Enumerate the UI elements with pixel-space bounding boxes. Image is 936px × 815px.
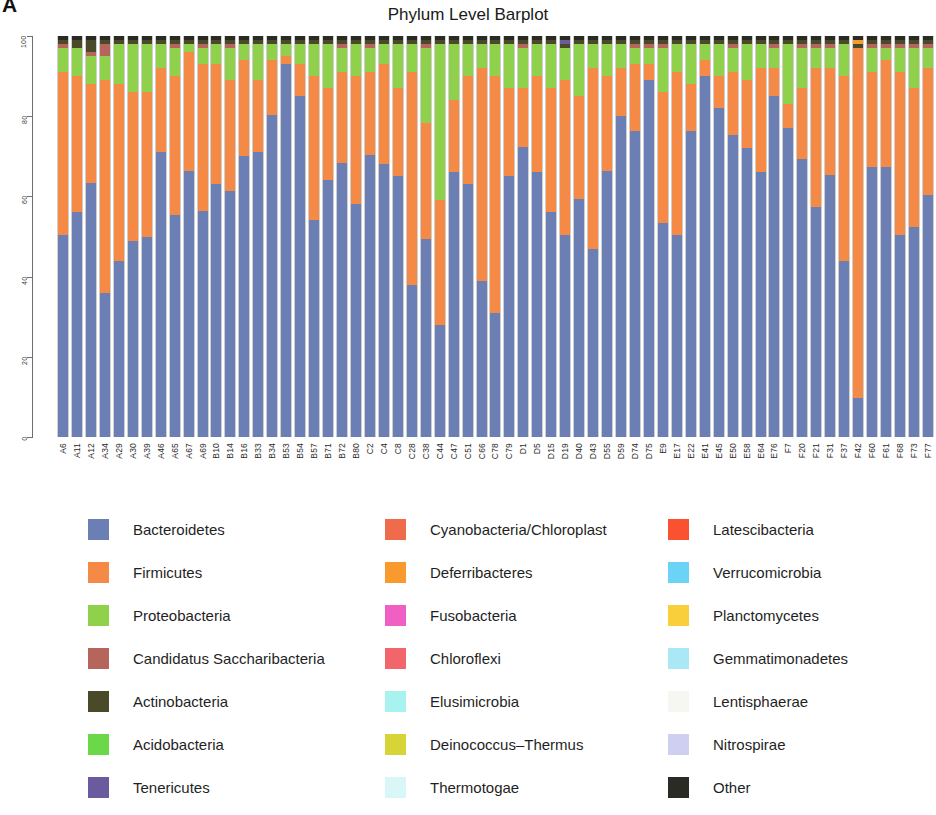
stacked-bar[interactable] [713,36,725,437]
stacked-bar[interactable] [782,36,794,437]
legend-item[interactable]: Other [668,766,848,809]
stacked-bar[interactable] [894,36,906,437]
bar-segment [351,76,361,204]
x-axis-tick-label-wrap: E76 [767,443,781,503]
legend-item[interactable]: Deinococcus–Thermus [385,723,607,766]
stacked-bar[interactable] [489,36,501,437]
stacked-bar[interactable] [350,36,362,437]
stacked-bar[interactable] [573,36,585,437]
stacked-bar[interactable] [183,36,195,437]
stacked-bar[interactable] [294,36,306,437]
legend-item[interactable]: Lentisphaerae [668,680,848,723]
stacked-bar[interactable] [57,36,69,437]
stacked-bar[interactable] [699,36,711,437]
stacked-bar[interactable] [880,36,892,437]
legend-item[interactable]: Chloroflexi [385,637,607,680]
stacked-bar[interactable] [601,36,613,437]
stacked-bar[interactable] [127,36,139,437]
stacked-bar[interactable] [838,36,850,437]
legend-item[interactable]: Nitrospirae [668,723,848,766]
stacked-bar[interactable] [210,36,222,437]
x-axis-tick-label-wrap: B10 [209,443,223,503]
bar-segment [198,48,208,64]
stacked-bar[interactable] [85,36,97,437]
legend-item[interactable]: Bacteroidetes [88,508,325,551]
x-axis-tick-label-wrap: C78 [488,443,502,503]
legend-item[interactable]: Latescibacteria [668,508,848,551]
stacked-bar[interactable] [671,36,683,437]
bar-segment [393,88,403,176]
legend-item[interactable]: Proteobacteria [88,594,325,637]
stacked-bar[interactable] [517,36,529,437]
stacked-bar[interactable] [141,36,153,437]
stacked-bar[interactable] [434,36,446,437]
legend-item[interactable]: Deferribacteres [385,551,607,594]
stacked-bar[interactable] [615,36,627,437]
stacked-bar[interactable] [755,36,767,437]
stacked-bar[interactable] [224,36,236,437]
x-axis-tick-label: A34 [100,443,110,459]
stacked-bar[interactable] [727,36,739,437]
stacked-bar[interactable] [824,36,836,437]
stacked-bar[interactable] [768,36,780,437]
legend-item[interactable]: Fusobacteria [385,594,607,637]
stacked-bar[interactable] [378,36,390,437]
stacked-bar[interactable] [657,36,669,437]
stacked-bar[interactable] [155,36,167,437]
legend-item[interactable]: Candidatus Saccharibacteria [88,637,325,680]
stacked-bar[interactable] [462,36,474,437]
stacked-bar[interactable] [643,36,655,437]
stacked-bar[interactable] [406,36,418,437]
x-axis-tick-label-wrap: B54 [293,443,307,503]
stacked-bar[interactable] [364,36,376,437]
stacked-bar[interactable] [238,36,250,437]
stacked-bar[interactable] [448,36,460,437]
legend-item[interactable]: Thermotogae [385,766,607,809]
stacked-bar[interactable] [545,36,557,437]
stacked-bar[interactable] [587,36,599,437]
stacked-bar[interactable] [197,36,209,437]
legend-item[interactable]: Planctomycetes [668,594,848,637]
stacked-bar[interactable] [336,36,348,437]
stacked-bar[interactable] [559,36,571,437]
bar-segment [839,261,849,437]
legend-item[interactable]: Tenericutes [88,766,325,809]
stacked-bar[interactable] [392,36,404,437]
x-axis-tick-label-wrap: B72 [335,443,349,503]
x-axis-tick-label: A69 [198,443,208,459]
stacked-bar[interactable] [252,36,264,437]
stacked-bar[interactable] [280,36,292,437]
stacked-bar[interactable] [796,36,808,437]
bar-segment [672,44,682,72]
bar-segment [783,128,793,437]
stacked-bar[interactable] [531,36,543,437]
stacked-bar[interactable] [629,36,641,437]
legend-item[interactable]: Firmicutes [88,551,325,594]
stacked-bar[interactable] [71,36,83,437]
stacked-bar[interactable] [908,36,920,437]
legend-item[interactable]: Acidobacteria [88,723,325,766]
bar-segment [337,72,347,163]
stacked-bar[interactable] [169,36,181,437]
stacked-bar[interactable] [420,36,432,437]
stacked-bar[interactable] [476,36,488,437]
stacked-bar[interactable] [866,36,878,437]
stacked-bar[interactable] [503,36,515,437]
legend-item[interactable]: Verrucomicrobia [668,551,848,594]
stacked-bar[interactable] [322,36,334,437]
stacked-bar[interactable] [685,36,697,437]
legend-item[interactable]: Actinobacteria [88,680,325,723]
legend-column-2: Cyanobacteria/ChloroplastDeferribacteres… [385,508,607,809]
stacked-bar[interactable] [922,36,934,437]
bar-segment [756,172,766,437]
stacked-bar[interactable] [852,36,864,437]
stacked-bar[interactable] [308,36,320,437]
legend-item[interactable]: Cyanobacteria/Chloroplast [385,508,607,551]
legend-item[interactable]: Elusimicrobia [385,680,607,723]
stacked-bar[interactable] [810,36,822,437]
stacked-bar[interactable] [266,36,278,437]
stacked-bar[interactable] [113,36,125,437]
legend-item[interactable]: Gemmatimonadetes [668,637,848,680]
stacked-bar[interactable] [741,36,753,437]
stacked-bar[interactable] [99,36,111,437]
